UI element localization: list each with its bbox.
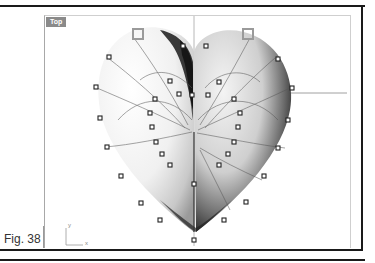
world-axis-icon (66, 228, 83, 245)
axis-y-label: y (68, 222, 71, 228)
figure-divider (43, 226, 44, 248)
figure-caption: Fig. 38 (4, 232, 41, 246)
axis-x-label: x (85, 240, 88, 246)
heart-model-scene[interactable] (0, 0, 375, 263)
